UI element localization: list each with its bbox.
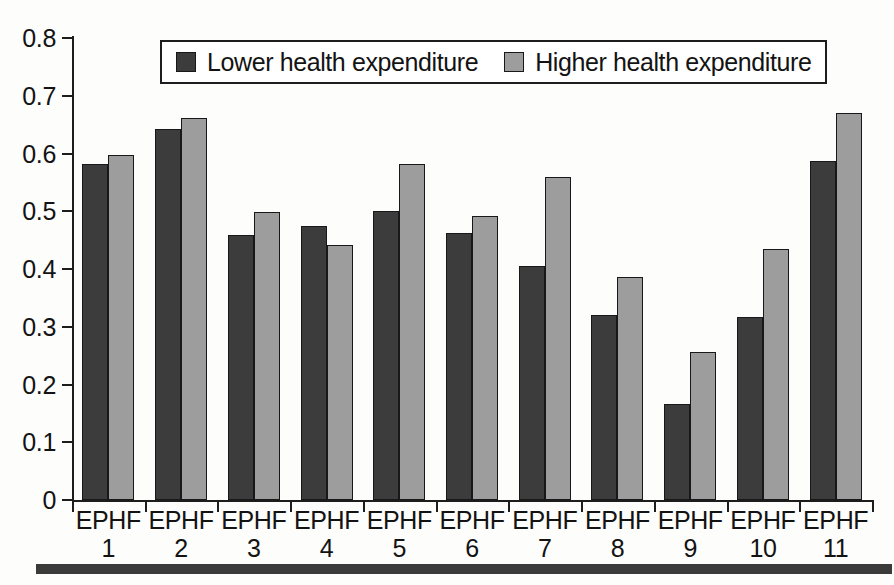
bar-group xyxy=(664,38,716,500)
x-label-line-2: 6 xyxy=(436,534,509,562)
y-axis-tick-label: 0.5 xyxy=(4,197,56,226)
x-label-line-2: 10 xyxy=(727,534,800,562)
bar-higher-expenditure xyxy=(399,164,425,500)
y-axis-tick-label: 0.6 xyxy=(4,139,56,168)
x-label-line-2: 8 xyxy=(581,534,654,562)
bar-higher-expenditure xyxy=(763,249,789,500)
x-axis-tick xyxy=(872,500,874,512)
y-axis-tick xyxy=(62,326,72,328)
x-axis-category-label: EPHF11 xyxy=(799,506,872,562)
bar-group xyxy=(737,38,789,500)
legend-swatch-lower xyxy=(176,52,196,72)
x-axis-category-label: EPHF7 xyxy=(508,506,581,562)
y-axis-tick xyxy=(62,268,72,270)
bar-lower-expenditure xyxy=(228,235,254,500)
x-label-line-1: EPHF xyxy=(654,506,727,534)
y-axis-tick xyxy=(62,441,72,443)
y-axis-tick-label: 0.3 xyxy=(4,312,56,341)
legend-entry: Lower health expenditure xyxy=(176,48,478,77)
x-label-line-1: EPHF xyxy=(290,506,363,534)
y-axis-tick-label: 0.4 xyxy=(4,255,56,284)
x-label-line-1: EPHF xyxy=(727,506,800,534)
bar-group xyxy=(373,38,425,500)
x-label-line-1: EPHF xyxy=(145,506,218,534)
bar-higher-expenditure xyxy=(327,245,353,500)
x-label-line-2: 2 xyxy=(145,534,218,562)
plot-area xyxy=(72,38,872,500)
y-axis-tick-label: 0.2 xyxy=(4,370,56,399)
bar-chart-figure: 00.10.20.30.40.50.60.70.8 EPHF1EPHF2EPHF… xyxy=(0,0,894,585)
chart-legend: Lower health expenditureHigher health ex… xyxy=(160,40,827,84)
x-axis-category-label: EPHF5 xyxy=(363,506,436,562)
bar-group xyxy=(155,38,207,500)
bar-higher-expenditure xyxy=(690,352,716,500)
bar-lower-expenditure xyxy=(810,161,836,500)
y-axis-tick xyxy=(62,210,72,212)
bar-higher-expenditure xyxy=(472,216,498,500)
bar-higher-expenditure xyxy=(181,118,207,500)
bar-lower-expenditure xyxy=(591,315,617,500)
bar-higher-expenditure xyxy=(254,212,280,500)
bar-higher-expenditure xyxy=(836,113,862,500)
y-axis-tick xyxy=(62,37,72,39)
y-axis-tick xyxy=(62,384,72,386)
bar-lower-expenditure xyxy=(82,164,108,500)
x-label-line-1: EPHF xyxy=(581,506,654,534)
y-axis-tick-label: 0.7 xyxy=(4,81,56,110)
x-axis-category-label: EPHF8 xyxy=(581,506,654,562)
y-axis-tick xyxy=(62,95,72,97)
bar-higher-expenditure xyxy=(108,155,134,500)
x-label-line-1: EPHF xyxy=(72,506,145,534)
x-label-line-2: 1 xyxy=(72,534,145,562)
x-label-line-1: EPHF xyxy=(508,506,581,534)
bar-lower-expenditure xyxy=(373,211,399,500)
x-label-line-1: EPHF xyxy=(217,506,290,534)
legend-entry: Higher health expenditure xyxy=(504,48,811,77)
x-axis-category-label: EPHF4 xyxy=(290,506,363,562)
bar-group xyxy=(82,38,134,500)
bar-group xyxy=(810,38,862,500)
x-label-line-2: 9 xyxy=(654,534,727,562)
bar-higher-expenditure xyxy=(545,177,571,500)
x-axis-category-label: EPHF2 xyxy=(145,506,218,562)
legend-label: Lower health expenditure xyxy=(207,48,478,77)
y-axis-tick-label: 0 xyxy=(4,486,56,515)
x-label-line-1: EPHF xyxy=(363,506,436,534)
bar-higher-expenditure xyxy=(617,277,643,500)
bar-group xyxy=(228,38,280,500)
x-label-line-2: 4 xyxy=(290,534,363,562)
y-axis-tick-label: 0.1 xyxy=(4,428,56,457)
x-label-line-2: 11 xyxy=(799,534,872,562)
x-label-line-2: 5 xyxy=(363,534,436,562)
y-axis-tick-label: 0.8 xyxy=(4,24,56,53)
bar-lower-expenditure xyxy=(301,226,327,500)
x-axis-category-label: EPHF9 xyxy=(654,506,727,562)
legend-swatch-higher xyxy=(504,52,524,72)
bar-lower-expenditure xyxy=(446,233,472,500)
x-axis-category-label: EPHF1 xyxy=(72,506,145,562)
bar-lower-expenditure xyxy=(155,129,181,500)
legend-label: Higher health expenditure xyxy=(535,48,811,77)
y-axis-tick xyxy=(62,153,72,155)
bar-group xyxy=(301,38,353,500)
x-axis-category-label: EPHF6 xyxy=(436,506,509,562)
x-label-line-1: EPHF xyxy=(799,506,872,534)
x-label-line-2: 3 xyxy=(217,534,290,562)
bottom-divider-rule xyxy=(36,564,892,574)
bar-lower-expenditure xyxy=(737,317,763,500)
x-axis-line xyxy=(72,500,874,502)
bar-group xyxy=(446,38,498,500)
y-axis-tick xyxy=(62,499,72,501)
x-label-line-1: EPHF xyxy=(436,506,509,534)
bar-group xyxy=(591,38,643,500)
bar-lower-expenditure xyxy=(519,266,545,500)
bar-lower-expenditure xyxy=(664,404,690,500)
x-axis-category-label: EPHF3 xyxy=(217,506,290,562)
bar-group xyxy=(519,38,571,500)
x-label-line-2: 7 xyxy=(508,534,581,562)
x-axis-category-label: EPHF10 xyxy=(727,506,800,562)
